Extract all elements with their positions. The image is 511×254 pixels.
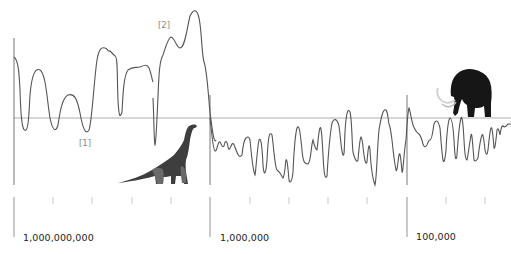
- temperature-curve-segment-1: [14, 48, 153, 132]
- minor-ticks: [53, 197, 485, 204]
- temperature-curve-segment-1b: [153, 11, 216, 145]
- annotation-label-2: [2]: [158, 20, 170, 30]
- temperature-curve-segment-3: [406, 108, 511, 162]
- climate-timeline-chart: [0, 0, 511, 254]
- axis-label-million: 1,000,000: [220, 232, 269, 243]
- woolly-mammoth-icon: [437, 69, 491, 117]
- temperature-curve-segment-2: [210, 110, 406, 185]
- annotation-label-1: [1]: [79, 138, 91, 148]
- axis-label-hundred-thousand: 100,000: [416, 231, 456, 242]
- major-ticks: [14, 197, 407, 237]
- brachiosaurus-icon: [118, 125, 197, 184]
- axis-label-billion: 1,000,000,000: [23, 232, 94, 243]
